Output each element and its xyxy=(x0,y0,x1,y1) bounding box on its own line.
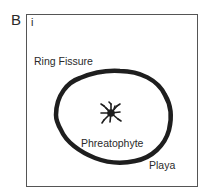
label-phreatophyte: Phreatophyte xyxy=(81,137,143,149)
label-playa: Playa xyxy=(149,159,175,171)
phreatophyte-icon xyxy=(101,102,121,123)
label-ring-fissure: Ring Fissure xyxy=(34,55,93,67)
ring-fissure-diagram xyxy=(0,0,212,196)
